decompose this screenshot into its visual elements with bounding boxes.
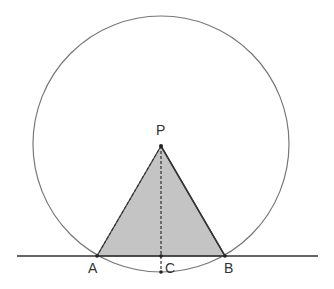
point-B (223, 254, 227, 258)
label-B: B (224, 260, 233, 276)
point-P (159, 144, 163, 148)
label-C: C (165, 260, 175, 276)
geometry-diagram: P A C B (0, 0, 334, 289)
point-C (159, 254, 163, 258)
point-A (95, 254, 99, 258)
label-A: A (88, 260, 98, 276)
point-bottom (159, 270, 163, 274)
label-P: P (156, 122, 165, 138)
